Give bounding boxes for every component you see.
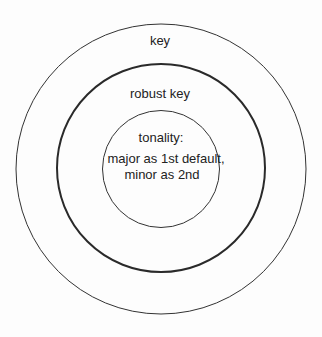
middle-circle-label: robust key: [130, 86, 190, 101]
diagram-page: key robust key tonality: major as 1st de…: [0, 0, 322, 337]
inner-circle-body-line-2: minor as 2nd: [124, 167, 199, 182]
inner-circle-label: tonality:: [139, 130, 184, 145]
inner-circle-body-line-1: major as 1st default,: [107, 151, 224, 166]
outer-circle-label: key: [150, 33, 170, 48]
